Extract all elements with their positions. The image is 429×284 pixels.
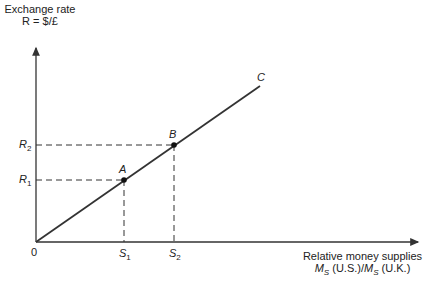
point-b-label: B bbox=[169, 128, 176, 140]
x-axis-label-line2: MS (U.S.)/MS (U.K.) bbox=[300, 262, 425, 277]
x-axis-label-line1: Relative money supplies bbox=[300, 250, 425, 262]
point-b bbox=[171, 142, 177, 148]
r1-tick-label: R1 bbox=[19, 173, 31, 188]
y-axis-label-line2: R = $/£ bbox=[2, 15, 78, 27]
us-text: (U.S.)/ bbox=[329, 262, 364, 274]
s2-tick-label: S2 bbox=[169, 247, 181, 262]
r2-tick-label: R2 bbox=[19, 138, 31, 153]
r-symbol: R bbox=[19, 173, 27, 185]
x-axis-label: Relative money supplies MS (U.S.)/MS (U.… bbox=[300, 250, 425, 277]
r-symbol: R bbox=[19, 138, 27, 150]
s2-sub: 2 bbox=[176, 253, 180, 262]
line-label-c: C bbox=[257, 71, 265, 83]
ms-symbol: M bbox=[315, 262, 324, 274]
diagram-canvas bbox=[0, 0, 429, 284]
point-a bbox=[121, 177, 127, 183]
ms-symbol: M bbox=[364, 262, 373, 274]
uk-text: (U.K.) bbox=[379, 262, 411, 274]
r1-sub: 1 bbox=[27, 179, 31, 188]
y-axis-label: Exchange rate R = $/£ bbox=[2, 3, 78, 27]
line-0C bbox=[36, 86, 260, 242]
s1-sub: 1 bbox=[126, 253, 130, 262]
point-a-label: A bbox=[119, 163, 126, 175]
s1-tick-label: S1 bbox=[119, 247, 131, 262]
y-axis-label-line1: Exchange rate bbox=[2, 3, 78, 15]
origin-label: 0 bbox=[31, 246, 37, 258]
r2-sub: 2 bbox=[27, 144, 31, 153]
